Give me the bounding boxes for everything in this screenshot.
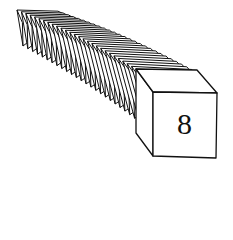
- cube-number-label: 8: [153, 92, 216, 156]
